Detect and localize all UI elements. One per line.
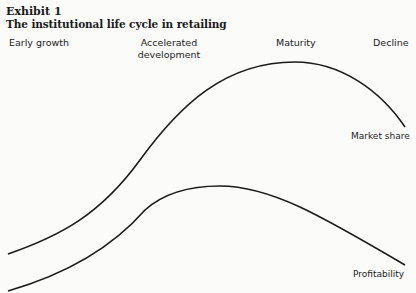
profitability-curve bbox=[8, 186, 405, 291]
life-cycle-curves bbox=[0, 0, 416, 293]
profitability-label: Profitability bbox=[353, 269, 404, 280]
market-share-label: Market share bbox=[351, 131, 410, 142]
market-share-curve bbox=[8, 62, 405, 254]
